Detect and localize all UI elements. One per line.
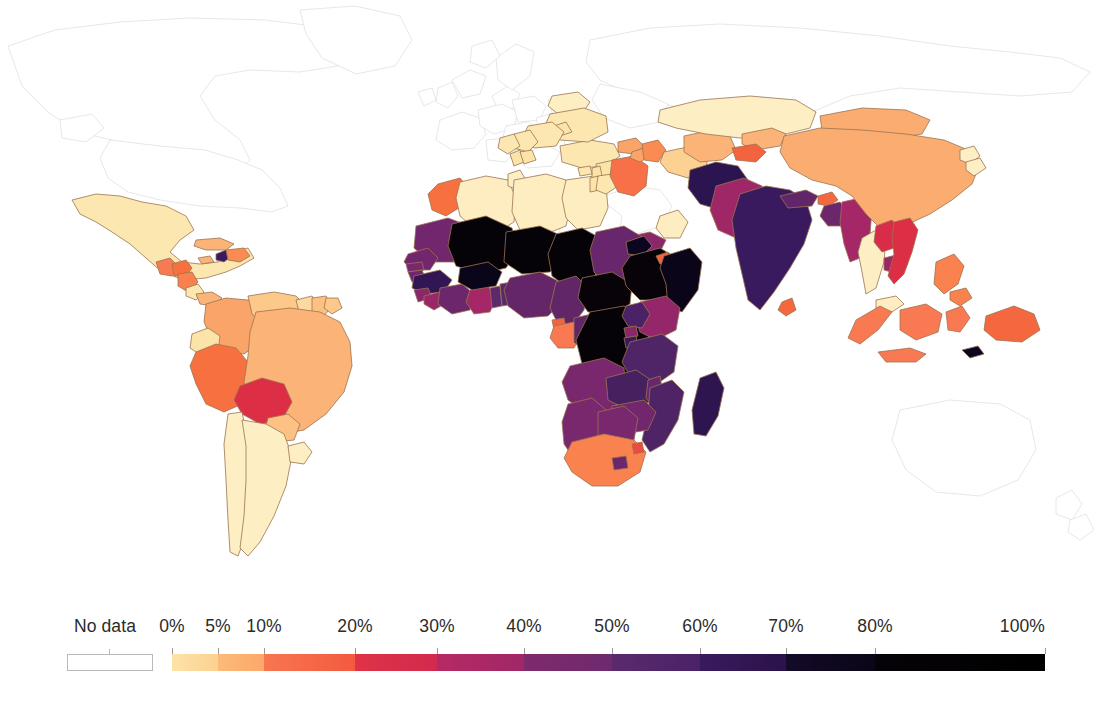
map-canvas[interactable]: .c { stroke:#9b7450; stroke-width:0.8; s… <box>0 0 1116 600</box>
color-legend: No data 0%5%10%20%30%40%50%60%70%80%100% <box>0 612 1116 692</box>
legend-tick-label-0: 0% <box>159 616 185 636</box>
region-philippines <box>934 254 964 294</box>
legend-tick-30 <box>437 648 438 654</box>
legend-tick-label-70: 70% <box>768 616 803 636</box>
legend-tick-label-60: 60% <box>682 616 717 636</box>
region-cyprus <box>578 166 592 176</box>
legend-tick-10 <box>264 648 265 654</box>
region-cuba <box>194 238 234 250</box>
region-papua-new-guinea <box>984 306 1040 342</box>
legend-segment-20-30 <box>355 654 437 671</box>
region-eswatini <box>632 442 644 454</box>
legend-nodata-tick <box>109 649 110 654</box>
legend-segment-50-60 <box>612 654 700 671</box>
legend-segment-5-10 <box>218 654 264 671</box>
region-lesotho <box>612 456 628 470</box>
region-argentina <box>240 420 292 556</box>
legend-tick-label-20: 20% <box>337 616 372 636</box>
legend-tick-label-10: 10% <box>246 616 281 636</box>
legend-tick-0 <box>172 648 173 654</box>
legend-tick-20 <box>355 648 356 654</box>
region-madagascar <box>692 372 724 436</box>
legend-tick-labels: No data 0%5%10%20%30%40%50%60%70%80%100% <box>0 612 1116 638</box>
legend-segment-60-70 <box>700 654 786 671</box>
legend-tick-40 <box>524 648 525 654</box>
legend-segment-40-50 <box>524 654 612 671</box>
region-indonesia-kalimantan <box>900 304 942 340</box>
region-philippines-south <box>950 288 972 306</box>
legend-tick-50 <box>612 648 613 654</box>
region-indonesia-sumatra <box>848 306 892 344</box>
legend-tick-70 <box>786 648 787 654</box>
legend-tick-label-100: 100% <box>1000 616 1045 636</box>
region-sri-lanka <box>778 298 796 316</box>
legend-tick-label-80: 80% <box>857 616 892 636</box>
legend-tick-label-5: 5% <box>205 616 231 636</box>
legend-tick-80 <box>875 648 876 654</box>
region-indonesia-sulawesi <box>946 306 970 332</box>
legend-segment-0-5 <box>172 654 218 671</box>
world-choropleth-figure: .c { stroke:#9b7450; stroke-width:0.8; s… <box>0 0 1116 711</box>
region-indonesia-java <box>878 348 926 362</box>
region-timor-leste <box>962 346 984 358</box>
legend-tick-60 <box>700 648 701 654</box>
legend-tick-label-50: 50% <box>594 616 629 636</box>
legend-color-scale[interactable] <box>172 654 1045 671</box>
legend-segment-30-40 <box>437 654 524 671</box>
legend-tick-label-40: 40% <box>506 616 541 636</box>
region-uruguay <box>288 442 312 464</box>
legend-nodata-swatch[interactable] <box>67 654 153 671</box>
region-south-africa <box>564 434 646 486</box>
region-jamaica <box>198 256 214 264</box>
legend-nodata-label: No data <box>74 616 136 636</box>
legend-segment-70-80 <box>786 654 875 671</box>
legend-tick-5 <box>218 648 219 654</box>
legend-tick-100 <box>1045 648 1046 654</box>
legend-segment-80-100 <box>875 654 1045 671</box>
legend-tick-label-30: 30% <box>419 616 454 636</box>
legend-segment-10-20 <box>264 654 355 671</box>
